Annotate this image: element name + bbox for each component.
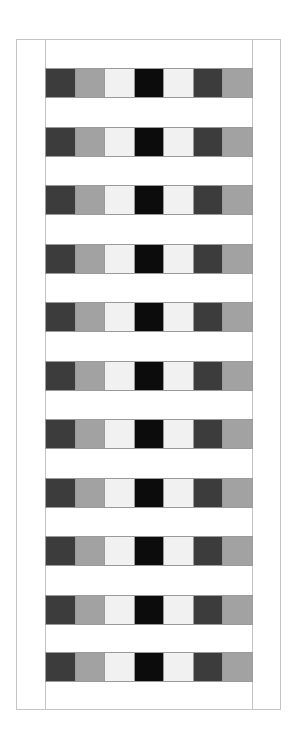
tile-light <box>105 245 135 273</box>
tile-mid <box>223 362 252 390</box>
tile-light <box>164 362 194 390</box>
tile-row <box>45 652 253 682</box>
tile-mid <box>223 186 252 214</box>
tile-light <box>164 245 194 273</box>
tile-light <box>164 420 194 448</box>
tile-mid <box>76 653 106 681</box>
tile-black <box>135 245 165 273</box>
tile-light <box>164 303 194 331</box>
tile-light <box>164 653 194 681</box>
tile-light <box>164 537 194 565</box>
tile-mid <box>76 69 106 97</box>
tile-light <box>105 479 135 507</box>
tile-mid <box>223 653 252 681</box>
tile-light <box>105 128 135 156</box>
tile-row <box>45 419 253 449</box>
tile-row <box>45 127 253 157</box>
tile-row <box>45 595 253 625</box>
tile-dark <box>46 245 76 273</box>
tile-mid <box>76 303 106 331</box>
tile-dark <box>46 362 76 390</box>
tile-dark <box>194 537 224 565</box>
tile-dark <box>194 186 224 214</box>
tile-dark <box>194 596 224 624</box>
tile-row <box>45 68 253 98</box>
tile-black <box>135 303 165 331</box>
tile-dark <box>46 186 76 214</box>
tile-row <box>45 536 253 566</box>
tile-mid <box>76 479 106 507</box>
tile-light <box>105 69 135 97</box>
tile-light <box>105 186 135 214</box>
tile-row <box>45 302 253 332</box>
tile-mid <box>76 362 106 390</box>
tile-dark <box>194 128 224 156</box>
tile-black <box>135 128 165 156</box>
tile-black <box>135 362 165 390</box>
tile-row <box>45 361 253 391</box>
tile-dark <box>46 69 76 97</box>
tile-black <box>135 537 165 565</box>
tile-black <box>135 479 165 507</box>
tile-dark <box>46 303 76 331</box>
tile-light <box>164 69 194 97</box>
tile-mid <box>223 420 252 448</box>
tile-light <box>164 596 194 624</box>
tile-dark <box>194 362 224 390</box>
tile-light <box>105 596 135 624</box>
tile-light <box>105 537 135 565</box>
tile-black <box>135 186 165 214</box>
tile-light <box>164 128 194 156</box>
tile-dark <box>46 479 76 507</box>
tile-row <box>45 478 253 508</box>
tile-mid <box>76 596 106 624</box>
tile-mid <box>76 420 106 448</box>
tile-dark <box>194 420 224 448</box>
tile-dark <box>194 479 224 507</box>
tile-mid <box>223 303 252 331</box>
tile-light <box>105 362 135 390</box>
tile-dark <box>46 537 76 565</box>
tile-dark <box>194 245 224 273</box>
tile-light <box>164 186 194 214</box>
tile-light <box>105 653 135 681</box>
tile-mid <box>76 128 106 156</box>
tile-light <box>105 303 135 331</box>
tile-mid <box>76 245 106 273</box>
tile-dark <box>46 420 76 448</box>
tile-dark <box>46 596 76 624</box>
tile-dark <box>194 303 224 331</box>
tile-black <box>135 69 165 97</box>
tile-light <box>164 479 194 507</box>
tile-dark <box>194 69 224 97</box>
tile-mid <box>223 596 252 624</box>
tile-mid <box>223 537 252 565</box>
tile-dark <box>46 128 76 156</box>
tile-light <box>105 420 135 448</box>
tile-mid <box>76 537 106 565</box>
tile-mid <box>223 479 252 507</box>
tile-black <box>135 420 165 448</box>
tile-dark <box>194 653 224 681</box>
tile-row <box>45 244 253 274</box>
tile-mid <box>223 128 252 156</box>
tile-black <box>135 653 165 681</box>
tile-mid <box>223 245 252 273</box>
tile-mid <box>223 69 252 97</box>
tile-mid <box>76 186 106 214</box>
tile-dark <box>46 653 76 681</box>
tile-row <box>45 185 253 215</box>
tile-black <box>135 596 165 624</box>
